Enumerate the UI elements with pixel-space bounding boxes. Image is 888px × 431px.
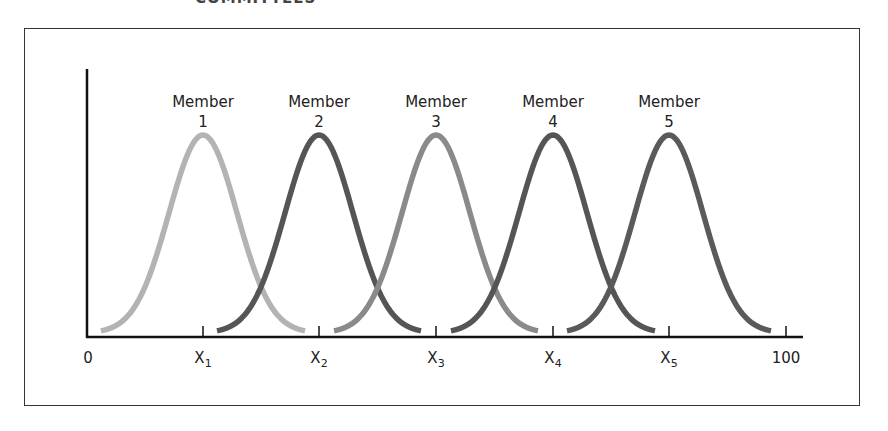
member-label-1-word: Member <box>172 93 235 111</box>
curve-member-5 <box>567 135 771 331</box>
curve-member-2 <box>217 135 421 331</box>
tick-label-x1: X1 <box>194 349 211 370</box>
member-label-3-word: Member <box>405 93 468 111</box>
bell-curve-diagram: Member1Member2Member3Member4Member5 0X1X… <box>0 0 888 431</box>
tick-label-x2: X2 <box>310 349 327 370</box>
tick-label-100: 100 <box>772 349 801 367</box>
tick-label-x4: X4 <box>544 349 561 370</box>
tick-label-x3: X3 <box>427 349 444 370</box>
member-label-2-word: Member <box>288 93 351 111</box>
member-curves <box>101 135 771 331</box>
x-axis-tick-labels: 0X1X2X3X4X5100 <box>83 349 800 370</box>
member-labels: Member1Member2Member3Member4Member5 <box>172 93 701 131</box>
curve-member-4 <box>451 135 655 331</box>
member-label-1-number: 1 <box>198 113 208 131</box>
member-label-5-number: 5 <box>664 113 674 131</box>
member-label-3-number: 3 <box>431 113 441 131</box>
curve-member-1 <box>101 135 305 331</box>
member-label-5-word: Member <box>638 93 701 111</box>
curve-member-3 <box>334 135 538 331</box>
member-label-4-number: 4 <box>548 113 558 131</box>
tick-label-x5: X5 <box>660 349 677 370</box>
member-label-4-word: Member <box>522 93 585 111</box>
tick-label-0: 0 <box>83 349 93 367</box>
member-label-2-number: 2 <box>314 113 324 131</box>
